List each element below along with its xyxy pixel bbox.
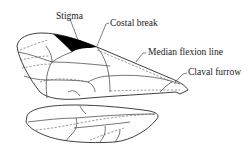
stigma-leader <box>70 19 78 40</box>
median-flexion-line-label: Median flexion line <box>148 48 223 58</box>
costal-break-label: Costal break <box>110 19 158 29</box>
wing-diagram: Stigma Costal break Median flexion line … <box>0 0 248 150</box>
costal-break-leader <box>97 23 109 46</box>
hindwing <box>26 105 158 143</box>
forewing <box>17 33 188 99</box>
stigma-label: Stigma <box>56 12 83 22</box>
claval-furrow-label: Claval furrow <box>188 68 241 78</box>
hindwing-outline <box>26 105 158 143</box>
median-flexion-leader <box>136 53 146 62</box>
